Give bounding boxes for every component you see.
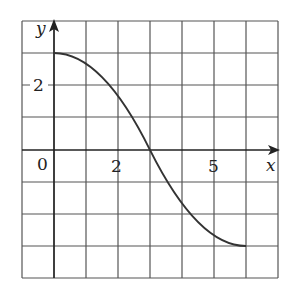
- y-tick-label-2: 2: [33, 75, 44, 95]
- x-tick-label-5: 5: [208, 156, 219, 176]
- y-axis-label: y: [35, 18, 46, 38]
- x-axis-label: x: [266, 155, 276, 175]
- x-tick-label-2: 2: [111, 156, 122, 176]
- function-graph: 2 y x 0 2 5: [0, 0, 292, 287]
- y-axis: [49, 19, 59, 278]
- origin-label: 0: [37, 154, 48, 174]
